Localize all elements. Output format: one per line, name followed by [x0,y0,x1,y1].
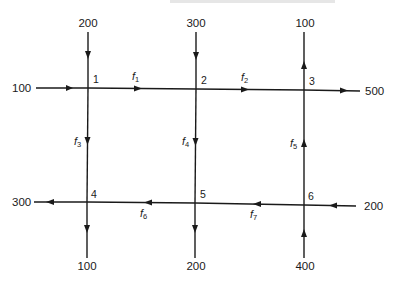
edge-in-top-node-2 [193,32,199,89]
arrow-right-icon [134,86,142,92]
value-in-bottom-node-6: 400 [295,260,314,272]
arrow-up-icon [301,139,307,147]
edge-in-left-node-1 [36,85,88,91]
value-in-top-node-1: 200 [78,17,97,29]
flow-label-f3: f3 [74,135,81,149]
arrow-down-icon [84,225,90,233]
edge-out-bottom-node-5 [192,203,198,258]
node-label-4: 4 [91,188,97,200]
node-label-3: 3 [309,75,315,87]
arrow-left-icon [144,200,152,206]
flow-label-f4: f4 [182,135,189,149]
cropped-caption [170,0,335,3]
flow-label-f2: f2 [241,71,248,85]
edge-f2 [196,87,304,93]
node-label-6: 6 [308,190,314,202]
flow-label-f1: f1 [132,70,139,84]
node-label-1: 1 [93,73,99,85]
value-out-right-node-3: 500 [365,85,384,97]
value-out-left-node-4: 300 [12,196,31,208]
arrow-down-icon [85,51,91,59]
arrow-up-icon [301,61,307,69]
edge-out-top-node-3 [301,32,307,90]
arrow-down-icon [193,138,199,146]
arrow-left-icon [329,203,337,209]
value-out-bottom-node-5: 200 [186,260,205,272]
edge-f5 [301,90,307,205]
arrow-right-icon [340,88,348,94]
value-in-top-node-2: 300 [186,17,205,29]
value-out-top-node-3: 100 [295,17,314,29]
arrow-down-icon [85,137,91,145]
edge-in-bottom-node-6 [301,205,307,258]
value-out-bottom-node-4: 100 [77,260,96,272]
arrow-up-icon [301,229,307,237]
traffic-network-diagram: 100 200 300 100 500 300 100 200 200 400 … [0,0,398,287]
arrow-right-icon [66,85,73,91]
edge-f4 [193,89,199,203]
edge-out-bottom-node-4 [84,202,90,258]
arrow-down-icon [193,52,199,60]
flow-label-f5: f5 [290,137,297,151]
flow-label-f7: f7 [250,208,257,222]
node-label-5: 5 [200,188,206,200]
edge-f6 [87,200,195,206]
edge-f7 [195,201,304,207]
value-in-right-node-6: 200 [364,200,383,212]
edge-out-left-node-4 [34,199,87,205]
arrow-right-icon [241,87,249,93]
edge-in-top-node-1 [85,32,91,88]
value-in-left-node-1: 100 [12,82,31,94]
arrow-left-icon [253,201,261,207]
edge-in-right-node-6 [304,203,356,209]
arrow-left-icon [46,199,54,205]
edge-f3 [85,88,91,202]
arrow-down-icon [192,225,198,233]
edge-out-right-node-3 [304,88,360,94]
edge-f1 [88,86,196,92]
node-label-2: 2 [201,74,207,86]
flow-label-f6: f6 [140,207,147,221]
